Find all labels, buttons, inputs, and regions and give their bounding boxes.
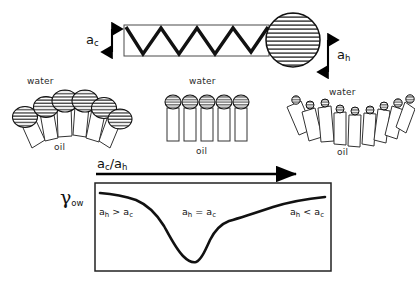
aggregate-oil-in-water xyxy=(13,90,133,148)
headgroup-icon xyxy=(233,95,249,109)
headgroup-icon xyxy=(336,105,344,113)
headgroup-icon xyxy=(182,95,198,109)
headgroup-icon xyxy=(216,95,232,109)
plot-frame xyxy=(95,183,331,271)
tail-body xyxy=(334,112,346,145)
tail-body xyxy=(348,115,361,147)
tail-body xyxy=(362,113,376,146)
hatched-circle-headgroup-icon xyxy=(266,13,320,67)
headgroup-icon xyxy=(108,109,132,129)
headgroup-icon xyxy=(306,101,314,109)
tail-body xyxy=(201,108,213,141)
aggregate-water-in-oil xyxy=(287,95,415,147)
phase-label-water-middle: water xyxy=(189,77,216,86)
aggregate-planar xyxy=(165,95,249,141)
gamma-ow-axis-label: γow xyxy=(60,188,84,208)
interfacial-tension-plot xyxy=(95,183,331,271)
single-surfactant-molecule xyxy=(112,13,328,72)
regime-label-left: ah > ac xyxy=(99,207,133,219)
molecule-head-area-label: ah xyxy=(337,48,350,63)
molecule-chain-area-label: ac xyxy=(86,33,99,48)
headgroup-icon xyxy=(380,102,388,110)
tail-body xyxy=(235,108,247,141)
headgroup-icon xyxy=(321,99,329,107)
headgroup-icon xyxy=(199,95,215,109)
headgroup-icon xyxy=(292,96,300,104)
headgroup-icon xyxy=(394,99,402,107)
phase-label-oil-right: oil xyxy=(337,148,348,157)
regime-label-right: ah < ac xyxy=(290,207,324,219)
tail-body xyxy=(167,108,179,141)
ratio-axis-label: ac/ah xyxy=(97,157,127,172)
tail-body xyxy=(318,106,334,142)
headgroup-icon xyxy=(406,95,414,103)
headgroup-icon xyxy=(351,107,359,115)
phase-label-oil-middle: oil xyxy=(196,147,207,156)
phase-label-water-left: water xyxy=(27,77,54,86)
surfactant-geometry-figure: ac ah water oil water oil water oil ac/a… xyxy=(0,0,415,294)
headgroup-icon xyxy=(366,106,374,114)
headgroup-icon xyxy=(165,95,181,109)
phase-label-oil-left: oil xyxy=(54,143,65,152)
tail-body xyxy=(184,108,196,141)
tail-body xyxy=(218,108,230,141)
regime-label-middle: ah = ac xyxy=(182,207,216,219)
phase-label-water-right: water xyxy=(329,88,356,97)
